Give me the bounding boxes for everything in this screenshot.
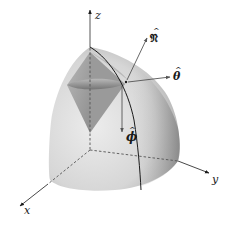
sphere-octant-diagram [0,0,232,228]
phi-vector-label: ϕ [126,131,137,143]
theta-vector-label: θ [173,71,180,82]
x-axis-label: x [24,205,30,216]
y-axis [178,161,209,173]
x-axis [20,184,48,206]
surface-point [125,81,127,83]
normal-vector-label: 𝔑 [150,33,158,44]
y-axis-label: y [212,174,218,185]
z-axis-label: z [95,10,101,21]
